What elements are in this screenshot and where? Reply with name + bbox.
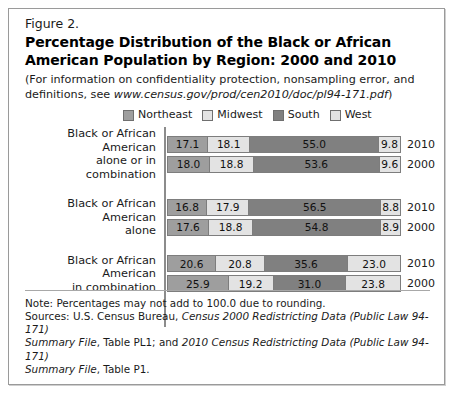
group-label-line1: Black or African American xyxy=(25,127,156,154)
bar-segment-value: 18.8 xyxy=(220,158,244,170)
bar-year-label: 2010 xyxy=(401,257,435,270)
bar-segment-south[interactable]: 35.6 xyxy=(264,255,347,272)
bar-segment-value: 18.8 xyxy=(219,221,243,233)
bar-group-inner: Black or African Americanalone or in com… xyxy=(25,127,444,181)
chart-plot-area: Black or African Americanalone or in com… xyxy=(9,127,444,294)
bar-segment-west[interactable]: 23.0 xyxy=(347,255,401,272)
bar-segment-value: 54.8 xyxy=(305,221,329,233)
bar-row: 17.118.155.09.82010 xyxy=(167,136,444,153)
group-label-line1: Black or African American xyxy=(25,197,156,224)
bar-segment-west[interactable]: 9.8 xyxy=(378,136,401,153)
bar-segment-value: 23.0 xyxy=(362,258,386,270)
bar-year-label: 2010 xyxy=(401,201,435,214)
bar-year-label: 2000 xyxy=(401,158,435,171)
bar-segment-northeast[interactable]: 18.0 xyxy=(167,156,209,173)
stacked-bar: 17.118.155.09.8 xyxy=(167,136,401,153)
table-p1: , Table P1. xyxy=(97,363,150,375)
bar-segment-value: 31.0 xyxy=(298,278,322,290)
legend-swatch-south-icon xyxy=(273,110,284,121)
stacked-bar: 20.620.835.623.0 xyxy=(167,255,401,272)
bar-segment-value: 20.8 xyxy=(228,258,252,270)
legend-swatch-midwest-icon xyxy=(202,110,213,121)
summary-file-2010: Summary File xyxy=(25,363,97,375)
bar-row: 17.618.854.88.92000 xyxy=(167,219,444,236)
bar-year-label: 2000 xyxy=(401,221,435,234)
bar-segment-south[interactable]: 56.5 xyxy=(248,199,380,216)
legend-label-midwest: Midwest xyxy=(217,109,262,121)
bar-segment-value: 23.8 xyxy=(361,278,385,290)
stacked-bar: 18.018.853.69.6 xyxy=(167,156,401,173)
figure-subtitle: (For information on confidentiality prot… xyxy=(25,73,430,102)
bar-row: 18.018.853.69.62000 xyxy=(167,156,444,173)
bar-group-rows: 20.620.835.623.0201025.919.231.023.82000 xyxy=(164,255,444,292)
legend-label-south: South xyxy=(288,109,320,121)
bar-segment-value: 20.6 xyxy=(180,258,204,270)
bar-year-label: 2010 xyxy=(401,138,435,151)
bar-segment-value: 9.8 xyxy=(381,138,398,150)
footnote-sources-line-1: Sources: U.S. Census Bureau, Census 2000… xyxy=(25,310,430,336)
table-pl1: , Table PL1; and xyxy=(97,336,182,348)
bar-row: 16.817.956.58.82010 xyxy=(167,199,444,216)
bar-segment-midwest[interactable]: 17.9 xyxy=(206,199,248,216)
legend-swatch-northeast-icon xyxy=(123,110,134,121)
bar-group-inner: Black or African Americanin combination2… xyxy=(25,254,444,295)
bar-year-label: 2000 xyxy=(401,277,435,290)
group-label-line2: alone or in combination xyxy=(25,154,156,181)
bar-segment-northeast[interactable]: 20.6 xyxy=(167,255,215,272)
bar-segment-midwest[interactable]: 20.8 xyxy=(215,255,264,272)
legend-item-northeast[interactable]: Northeast xyxy=(123,109,192,121)
bar-segment-value: 56.5 xyxy=(303,201,327,213)
bar-segment-west[interactable]: 9.6 xyxy=(379,156,401,173)
legend-item-west[interactable]: West xyxy=(330,109,372,121)
bar-segment-value: 16.8 xyxy=(175,201,199,213)
chart-legend: NortheastMidwestSouthWest xyxy=(9,109,444,121)
bar-group-label-1: Black or African Americanalone or in com… xyxy=(25,127,164,181)
sources-label: Sources: U.S. Census Bureau, xyxy=(25,310,182,322)
bar-segment-value: 8.9 xyxy=(382,221,399,233)
bar-segment-northeast[interactable]: 17.6 xyxy=(167,219,208,236)
group-label-line1: Black or African American xyxy=(25,254,156,281)
stacked-bar: 16.817.956.58.8 xyxy=(167,199,401,216)
subtitle-suffix: ) xyxy=(388,88,392,101)
bar-segment-value: 8.8 xyxy=(382,201,399,213)
census-url-link[interactable]: www.census.gov/prod/cen2010/doc/pl94-171… xyxy=(114,88,388,101)
group-spacer xyxy=(25,181,444,197)
bar-segment-west[interactable]: 8.8 xyxy=(380,199,401,216)
bar-group-3: Black or African Americanin combination2… xyxy=(25,254,444,295)
bar-segment-northeast[interactable]: 17.1 xyxy=(167,136,207,153)
bar-segment-value: 18.1 xyxy=(217,138,241,150)
bar-group-rows: 17.118.155.09.8201018.018.853.69.62000 xyxy=(164,136,444,173)
figure-number: Figure 2. xyxy=(25,16,430,32)
bar-segment-value: 18.0 xyxy=(177,158,201,170)
bar-segment-value: 55.0 xyxy=(302,138,326,150)
bar-group-1: Black or African Americanalone or in com… xyxy=(25,127,444,181)
legend-label-west: West xyxy=(345,109,372,121)
bar-segment-value: 9.6 xyxy=(381,158,398,170)
footnote-sources-line-2: Summary File, Table PL1; and 2010 Census… xyxy=(25,336,430,362)
bar-segment-northeast[interactable]: 16.8 xyxy=(167,199,206,216)
legend-swatch-west-icon xyxy=(330,110,341,121)
figure-header: Figure 2. Percentage Distribution of the… xyxy=(9,9,444,102)
bar-group-label-2: Black or African Americanalone xyxy=(25,197,164,238)
bar-segment-south[interactable]: 55.0 xyxy=(249,136,378,153)
bar-groups: Black or African Americanalone or in com… xyxy=(25,127,444,294)
bar-segment-value: 53.6 xyxy=(305,158,329,170)
bar-segment-south[interactable]: 53.6 xyxy=(253,156,378,173)
legend-item-midwest[interactable]: Midwest xyxy=(202,109,262,121)
bar-segment-west[interactable]: 8.9 xyxy=(380,219,401,236)
bar-segment-midwest[interactable]: 18.8 xyxy=(209,156,253,173)
stacked-bar: 17.618.854.88.9 xyxy=(167,219,401,236)
footnote-sources-line-3: Summary File, Table P1. xyxy=(25,363,430,376)
bar-group-label-3: Black or African Americanin combination xyxy=(25,254,164,295)
legend-item-south[interactable]: South xyxy=(273,109,320,121)
bar-segment-midwest[interactable]: 18.1 xyxy=(207,136,249,153)
figure-frame: Figure 2. Percentage Distribution of the… xyxy=(8,8,445,385)
bar-group-2: Black or African Americanalone16.817.956… xyxy=(25,197,444,238)
bar-group-rows: 16.817.956.58.8201017.618.854.88.92000 xyxy=(164,199,444,236)
bar-segment-midwest[interactable]: 18.8 xyxy=(208,219,252,236)
bar-segment-south[interactable]: 54.8 xyxy=(252,219,380,236)
bar-segment-value: 35.6 xyxy=(294,258,318,270)
figure-title: Percentage Distribution of the Black or … xyxy=(25,34,430,69)
bar-segment-value: 17.9 xyxy=(216,201,240,213)
legend-label-northeast: Northeast xyxy=(138,109,192,121)
